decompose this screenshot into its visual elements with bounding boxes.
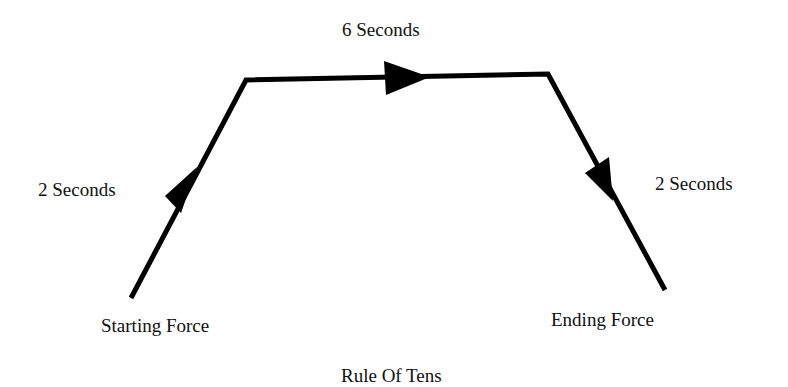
starting-force-label: Starting Force <box>101 316 209 335</box>
phase-ramp-up-label: 2 Seconds <box>38 180 116 199</box>
ending-force-label: Ending Force <box>551 310 654 329</box>
phase-hold-label: 6 Seconds <box>342 20 420 39</box>
arrow-up-icon <box>165 167 197 213</box>
force-path-line <box>131 74 665 298</box>
phase-ramp-down-label: 2 Seconds <box>655 174 733 193</box>
diagram-title: Rule Of Tens <box>341 366 442 385</box>
arrow-right-icon <box>384 61 430 95</box>
